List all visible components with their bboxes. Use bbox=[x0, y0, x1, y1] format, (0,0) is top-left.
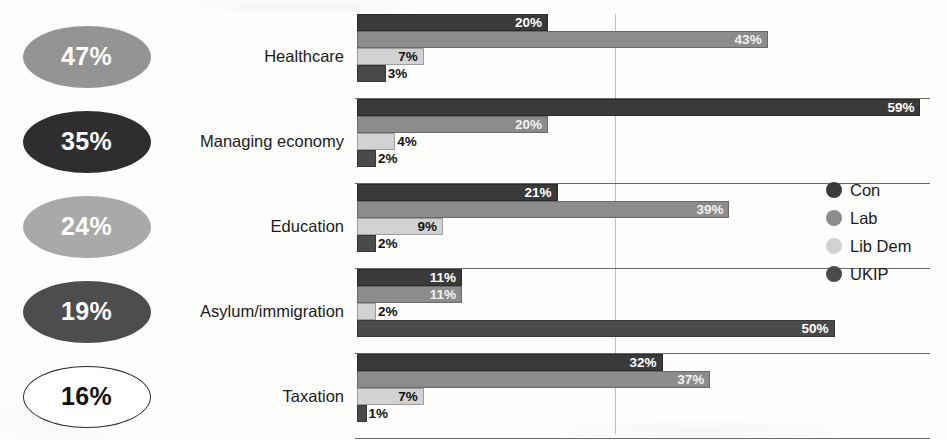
bar-row-lab: 20% bbox=[357, 116, 548, 133]
bar-row-con: 59% bbox=[357, 99, 920, 116]
summary-bubble-value: 47% bbox=[23, 26, 151, 88]
bar-row-lib-dem: 7% bbox=[357, 388, 424, 405]
bar-ukip[interactable]: 3% bbox=[357, 65, 386, 82]
bar-ukip[interactable]: 1% bbox=[357, 405, 367, 422]
summary-bubble-value: 19% bbox=[23, 281, 151, 343]
bar-value-label: 32% bbox=[630, 356, 657, 370]
legend-item-con[interactable]: Con bbox=[826, 176, 944, 204]
category-label-healthcare: Healthcare bbox=[148, 14, 344, 99]
bar-row-lab: 11% bbox=[357, 286, 462, 303]
legend-label: UKIP bbox=[850, 265, 889, 284]
summary-bubble-4: 19% bbox=[14, 269, 159, 354]
bar-lib-dem[interactable]: 7% bbox=[357, 388, 424, 405]
bar-row-ukip: 1% bbox=[357, 405, 367, 422]
category-label-column: HealthcareManaging economyEducationAsylu… bbox=[150, 14, 346, 440]
bar-con[interactable]: 20% bbox=[357, 14, 548, 31]
summary-bubble-1: 47% bbox=[14, 14, 159, 99]
summary-bubble-value: 35% bbox=[23, 111, 151, 173]
bar-row-con: 32% bbox=[357, 354, 663, 371]
bar-lib-dem[interactable]: 7% bbox=[357, 48, 424, 65]
bar-ukip[interactable]: 50% bbox=[357, 320, 835, 337]
legend-swatch-icon bbox=[826, 238, 842, 254]
bar-value-label: 50% bbox=[801, 322, 828, 336]
chart-legend: ConLabLib DemUKIP bbox=[826, 176, 944, 288]
bar-con[interactable]: 59% bbox=[357, 99, 920, 116]
group-separator bbox=[355, 438, 930, 439]
summary-bubble-value: 24% bbox=[23, 196, 151, 258]
category-label-managing-economy: Managing economy bbox=[148, 99, 344, 184]
bar-lab[interactable]: 39% bbox=[357, 201, 729, 218]
bar-value-label: 20% bbox=[515, 16, 542, 30]
bar-con[interactable]: 11% bbox=[357, 269, 462, 286]
bar-value-label: 1% bbox=[369, 407, 389, 421]
bar-row-con: 11% bbox=[357, 269, 462, 286]
bar-row-lib-dem: 7% bbox=[357, 48, 424, 65]
summary-bubble-5: 16% bbox=[14, 354, 159, 439]
bar-value-label: 59% bbox=[887, 101, 914, 115]
bar-value-label: 7% bbox=[398, 390, 418, 404]
bar-row-lab: 39% bbox=[357, 201, 729, 218]
summary-bubble-2: 35% bbox=[14, 99, 159, 184]
legend-label: Con bbox=[850, 181, 880, 200]
bar-row-ukip: 2% bbox=[357, 150, 376, 167]
category-label-taxation: Taxation bbox=[148, 354, 344, 439]
bar-value-label: 4% bbox=[397, 135, 417, 149]
bar-lab[interactable]: 43% bbox=[357, 31, 768, 48]
bar-value-label: 7% bbox=[398, 50, 418, 64]
bar-row-lab: 37% bbox=[357, 371, 710, 388]
legend-swatch-icon bbox=[826, 266, 842, 282]
legend-label: Lib Dem bbox=[850, 237, 911, 256]
bar-value-label: 9% bbox=[417, 220, 437, 234]
bar-lab[interactable]: 20% bbox=[357, 116, 548, 133]
bar-value-label: 39% bbox=[696, 203, 723, 217]
bar-group-healthcare: 20%43%7%3% bbox=[357, 14, 947, 99]
legend-label: Lab bbox=[850, 209, 878, 228]
bar-row-ukip: 50% bbox=[357, 320, 835, 337]
bar-row-lib-dem: 2% bbox=[357, 303, 376, 320]
bar-lib-dem[interactable]: 2% bbox=[357, 303, 376, 320]
bar-value-label: 2% bbox=[378, 305, 398, 319]
bar-row-lib-dem: 4% bbox=[357, 133, 395, 150]
bar-row-lab: 43% bbox=[357, 31, 768, 48]
bar-row-lib-dem: 9% bbox=[357, 218, 443, 235]
bar-value-label: 2% bbox=[378, 237, 398, 251]
bar-lab[interactable]: 11% bbox=[357, 286, 462, 303]
bar-con[interactable]: 21% bbox=[357, 184, 558, 201]
bar-value-label: 20% bbox=[515, 118, 542, 132]
bar-value-label: 37% bbox=[677, 373, 704, 387]
bar-value-label: 2% bbox=[378, 152, 398, 166]
category-label-education: Education bbox=[148, 184, 344, 269]
bar-group-managing-economy: 59%20%4%2% bbox=[357, 99, 947, 184]
bar-value-label: 3% bbox=[388, 67, 408, 81]
legend-swatch-icon bbox=[826, 210, 842, 226]
summary-bubble-3: 24% bbox=[14, 184, 159, 269]
bar-con[interactable]: 32% bbox=[357, 354, 663, 371]
bar-row-con: 21% bbox=[357, 184, 558, 201]
bar-lib-dem[interactable]: 9% bbox=[357, 218, 443, 235]
bar-lib-dem[interactable]: 4% bbox=[357, 133, 395, 150]
bar-value-label: 11% bbox=[430, 271, 456, 285]
bar-lab[interactable]: 37% bbox=[357, 371, 710, 388]
summary-bubble-value: 16% bbox=[23, 366, 151, 428]
summary-bubble-column: 47%35%24%19%16% bbox=[14, 14, 159, 440]
category-label-asylum-immigration: Asylum/immigration bbox=[148, 269, 344, 354]
bar-ukip[interactable]: 2% bbox=[357, 150, 376, 167]
bar-row-con: 20% bbox=[357, 14, 548, 31]
bar-value-label: 21% bbox=[525, 186, 552, 200]
bar-ukip[interactable]: 2% bbox=[357, 235, 376, 252]
bar-row-ukip: 2% bbox=[357, 235, 376, 252]
legend-item-ukip[interactable]: UKIP bbox=[826, 260, 944, 288]
legend-item-lab[interactable]: Lab bbox=[826, 204, 944, 232]
bar-value-label: 11% bbox=[430, 288, 456, 302]
bar-group-taxation: 32%37%7%1% bbox=[357, 354, 947, 439]
legend-swatch-icon bbox=[826, 182, 842, 198]
legend-item-lib-dem[interactable]: Lib Dem bbox=[826, 232, 944, 260]
bar-row-ukip: 3% bbox=[357, 65, 386, 82]
bar-value-label: 43% bbox=[735, 33, 762, 47]
